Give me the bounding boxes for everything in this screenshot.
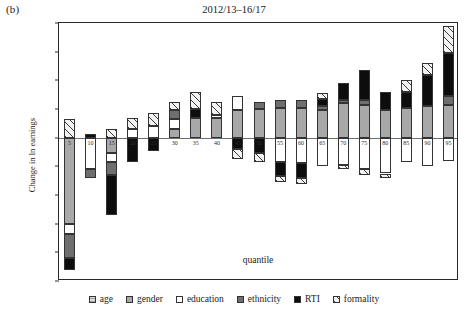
bar-segment-education[interactable] xyxy=(422,138,433,167)
bar-segment-formality[interactable] xyxy=(148,113,159,126)
bar-group[interactable]: 40 xyxy=(211,23,222,279)
bar-segment-gender[interactable] xyxy=(211,118,222,138)
bar-segment-ethnicity[interactable] xyxy=(106,162,117,175)
bar-segment-ethnicity[interactable] xyxy=(296,100,307,107)
bar-segment-education[interactable] xyxy=(443,138,454,161)
bar-segment-gender[interactable] xyxy=(317,110,328,137)
bar-segment-education[interactable] xyxy=(169,119,180,129)
bar-segment-rti[interactable] xyxy=(401,92,412,108)
bar-segment-formality[interactable] xyxy=(169,102,180,111)
bar-segment-formality[interactable] xyxy=(190,92,201,109)
bar-group[interactable]: 95 xyxy=(443,23,454,279)
bar-segment-formality[interactable] xyxy=(211,102,222,115)
bar-segment-formality[interactable] xyxy=(275,176,286,182)
bar-group[interactable]: 80 xyxy=(380,23,391,279)
bar-segment-formality[interactable] xyxy=(64,119,75,138)
bar-segment-gender[interactable] xyxy=(338,103,349,137)
legend-item[interactable]: formality xyxy=(333,294,379,304)
bar-group[interactable]: 30 xyxy=(169,23,180,279)
bar-segment-ethnicity[interactable] xyxy=(338,100,349,103)
bar-segment-rti[interactable] xyxy=(338,83,349,100)
bar-segment-gender[interactable] xyxy=(422,106,433,138)
bar-segment-rti[interactable] xyxy=(254,138,265,154)
bar-segment-education[interactable] xyxy=(296,138,307,164)
bar-group[interactable]: 70 xyxy=(338,23,349,279)
bar-segment-rti[interactable] xyxy=(317,99,328,106)
bar-segment-formality[interactable] xyxy=(443,26,454,53)
bar-segment-rti[interactable] xyxy=(359,70,370,100)
legend-item[interactable]: age xyxy=(89,294,113,304)
bar-segment-ethnicity[interactable] xyxy=(317,106,328,110)
bar-segment-formality[interactable] xyxy=(254,153,265,162)
bar-group[interactable]: 60 xyxy=(296,23,307,279)
bar-segment-gender[interactable] xyxy=(254,109,265,138)
bar-segment-rti[interactable] xyxy=(275,162,286,176)
bar-segment-ethnicity[interactable] xyxy=(359,100,370,104)
bar-segment-formality[interactable] xyxy=(338,165,349,169)
bar-segment-gender[interactable] xyxy=(380,110,391,137)
bar-segment-education[interactable] xyxy=(64,224,75,234)
bar-group[interactable]: 20 xyxy=(127,23,138,279)
bar-segment-education[interactable] xyxy=(232,96,243,110)
bar-segment-rti[interactable] xyxy=(296,163,307,177)
bar-segment-ethnicity[interactable] xyxy=(443,96,454,105)
bar-segment-rti[interactable] xyxy=(190,109,201,118)
bar-segment-education[interactable] xyxy=(127,129,138,138)
bar-segment-education[interactable] xyxy=(275,138,286,162)
bar-group[interactable]: 5 xyxy=(64,23,75,279)
bar-segment-rti[interactable] xyxy=(232,138,243,149)
bar-segment-rti[interactable] xyxy=(380,92,391,111)
bar-segment-rti[interactable] xyxy=(148,138,159,151)
bar-segment-education[interactable] xyxy=(317,138,328,167)
bar-group[interactable]: 10 xyxy=(85,23,96,279)
bar-group[interactable]: 65 xyxy=(317,23,328,279)
bar-segment-gender[interactable] xyxy=(401,108,412,138)
bar-segment-ethnicity[interactable] xyxy=(275,100,286,107)
bar-segment-formality[interactable] xyxy=(232,149,243,159)
bar-group[interactable]: 50 xyxy=(254,23,265,279)
bar-segment-rti[interactable] xyxy=(443,53,454,96)
bar-segment-formality[interactable] xyxy=(380,174,391,178)
bar-segment-education[interactable] xyxy=(85,138,96,170)
bar-group[interactable]: 90 xyxy=(422,23,433,279)
bar-segment-formality[interactable] xyxy=(317,93,328,99)
bar-segment-formality[interactable] xyxy=(106,129,117,138)
bar-segment-rti[interactable] xyxy=(127,138,138,162)
bar-segment-formality[interactable] xyxy=(296,178,307,184)
bar-group[interactable]: 45 xyxy=(232,23,243,279)
bar-group[interactable]: 15 xyxy=(106,23,117,279)
bar-segment-gender[interactable] xyxy=(275,108,286,138)
bar-segment-ethnicity[interactable] xyxy=(254,102,265,109)
bar-segment-formality[interactable] xyxy=(359,169,370,175)
bar-segment-education[interactable] xyxy=(380,138,391,174)
bar-segment-gender[interactable] xyxy=(296,108,307,138)
bar-segment-education[interactable] xyxy=(211,115,222,118)
bar-group[interactable]: 75 xyxy=(359,23,370,279)
bar-segment-gender[interactable] xyxy=(190,118,201,138)
legend-item[interactable]: ethnicity xyxy=(237,294,281,304)
bar-segment-gender[interactable] xyxy=(359,105,370,138)
bar-group[interactable]: 25 xyxy=(148,23,159,279)
bar-segment-gender[interactable] xyxy=(64,138,75,224)
bar-segment-formality[interactable] xyxy=(127,118,138,129)
bar-segment-rti[interactable] xyxy=(106,175,117,215)
bar-group[interactable]: 55 xyxy=(275,23,286,279)
bar-segment-gender[interactable] xyxy=(106,138,117,154)
bar-segment-formality[interactable] xyxy=(422,63,433,74)
bar-segment-gender[interactable] xyxy=(169,129,180,138)
bar-segment-education[interactable] xyxy=(148,126,159,137)
bar-segment-education[interactable] xyxy=(359,138,370,170)
bar-segment-rti[interactable] xyxy=(422,75,433,107)
bar-segment-gender[interactable] xyxy=(443,105,454,138)
bar-segment-ethnicity[interactable] xyxy=(169,110,180,119)
bar-group[interactable]: 35 xyxy=(190,23,201,279)
legend-item[interactable]: gender xyxy=(126,294,163,304)
bar-segment-ethnicity[interactable] xyxy=(85,169,96,178)
bar-segment-education[interactable] xyxy=(106,153,117,162)
bar-segment-formality[interactable] xyxy=(401,80,412,91)
bar-segment-education[interactable] xyxy=(401,138,412,162)
legend-item[interactable]: RTI xyxy=(294,294,320,304)
bar-segment-education[interactable] xyxy=(338,138,349,165)
bar-group[interactable]: 85 xyxy=(401,23,412,279)
legend-item[interactable]: education xyxy=(176,294,224,304)
